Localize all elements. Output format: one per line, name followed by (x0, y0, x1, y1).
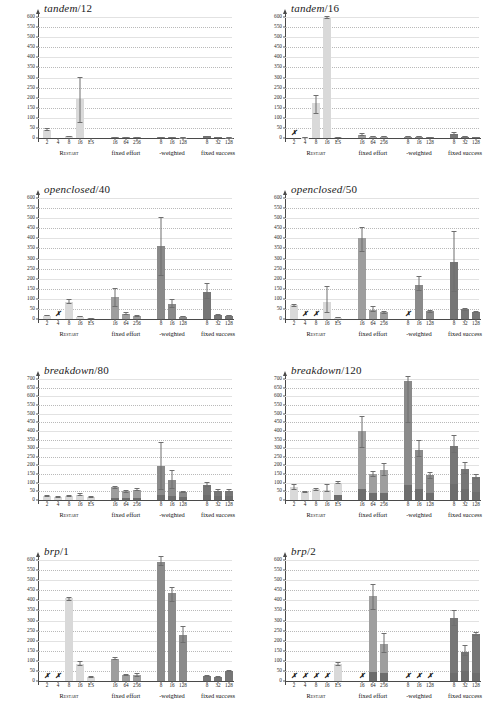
gridline (38, 248, 232, 249)
gridline (285, 590, 479, 591)
error-bar (476, 311, 477, 314)
y-tick-mark (283, 439, 286, 440)
y-tick-mark (36, 379, 39, 380)
y-tick-label: 50 (30, 489, 35, 494)
error-bar (80, 493, 81, 496)
y-tick-label: 100 (274, 296, 282, 301)
y-tick-label: 300 (27, 618, 35, 623)
x-tick-label: 2 (46, 321, 49, 326)
group-label-fixed-effort: fixed effort (359, 512, 388, 518)
x-tick-label: 128 (472, 502, 480, 507)
gridline (38, 483, 232, 484)
gridline (38, 431, 232, 432)
y-tick-label: 200 (27, 463, 35, 468)
panel-title-model: openclosed (291, 183, 342, 195)
y-tick-mark (36, 600, 39, 601)
group-label-restart: Restart (60, 512, 79, 518)
missing-data-marker: ✗ (405, 311, 411, 318)
y-tick-label: 400 (27, 428, 35, 433)
bar (43, 130, 51, 138)
y-tick-label: 500 (274, 35, 282, 40)
y-tick-mark (283, 17, 286, 18)
x-tick-label: 4 (57, 683, 60, 688)
y-tick-mark (283, 387, 286, 388)
x-tick-label: 16 (169, 683, 174, 688)
error-bar (384, 311, 385, 314)
y-tick-mark (283, 681, 286, 682)
y-tick-label: 350 (27, 65, 35, 70)
y-tick-label: 150 (274, 648, 282, 653)
panel-title: tandem/12 (44, 2, 92, 14)
y-tick-label: 250 (27, 85, 35, 90)
y-tick-label: 400 (27, 55, 35, 60)
x-tick-label: 64 (123, 140, 128, 145)
y-tick-label: 350 (27, 608, 35, 613)
y-tick-label: 350 (274, 608, 282, 613)
x-tick-label: 8 (206, 140, 209, 145)
gridline (285, 228, 479, 229)
error-bar (373, 584, 374, 610)
panel-title-param: /1 (60, 545, 69, 557)
y-tick-mark (36, 27, 39, 28)
y-tick-label: 100 (274, 115, 282, 120)
error-bar (69, 495, 70, 497)
y-tick-mark (36, 500, 39, 501)
error-bar (218, 314, 219, 316)
y-tick-label: 200 (274, 95, 282, 100)
y-tick-mark (36, 228, 39, 229)
gridline (38, 580, 232, 581)
x-tick-label: 128 (426, 683, 434, 688)
x-tick-label: 2 (46, 502, 49, 507)
error-bar (47, 128, 48, 130)
y-tick-label: 500 (274, 411, 282, 416)
x-tick-label: 4 (57, 140, 60, 145)
y-tick-label: 150 (27, 471, 35, 476)
x-tick-label: 2 (293, 502, 296, 507)
y-tick-mark (36, 422, 39, 423)
y-tick-mark (283, 491, 286, 492)
error-bar (316, 488, 317, 491)
y-tick-label: 500 (27, 578, 35, 583)
x-tick-label: 64 (370, 502, 375, 507)
error-bar (294, 484, 295, 489)
group-label-fixed-effort: fixed effort (112, 693, 141, 699)
y-tick-label: 400 (27, 598, 35, 603)
y-tick-label: 600 (27, 557, 35, 562)
error-bar (47, 495, 48, 498)
y-tick-mark (283, 138, 286, 139)
error-bar (229, 489, 230, 491)
x-tick-label: 16 (416, 140, 421, 145)
y-tick-mark (36, 77, 39, 78)
gridline (38, 98, 232, 99)
missing-data-marker: ✗ (55, 673, 61, 680)
x-tick-label: 128 (426, 140, 434, 145)
error-bar (327, 16, 328, 19)
y-tick-label: 400 (274, 55, 282, 60)
group-label-fixed-success: fixed success (448, 693, 482, 699)
y-tick-label: 200 (274, 463, 282, 468)
gridline (38, 88, 232, 89)
y-tick-label: 450 (27, 45, 35, 50)
x-tick-label: 8 (160, 683, 163, 688)
gridline (38, 108, 232, 109)
x-tick-label: 16 (169, 502, 174, 507)
x-tick-label: 256 (380, 502, 388, 507)
bar-base-segment (426, 493, 434, 500)
gridline (285, 431, 479, 432)
y-tick-mark (283, 278, 286, 279)
error-bar (218, 489, 219, 491)
gridline (38, 269, 232, 270)
error-bar (373, 306, 374, 312)
x-tick-label: 128 (179, 502, 187, 507)
y-tick-mark (36, 640, 39, 641)
error-bar (69, 136, 70, 137)
gridline (38, 259, 232, 260)
x-tick-label: 2 (293, 140, 296, 145)
y-tick-label: 250 (274, 266, 282, 271)
x-tick-label: 16 (112, 321, 117, 326)
group-label-fixed-effort: fixed effort (112, 150, 141, 156)
group-label-fixed-success: fixed success (448, 331, 482, 337)
plot-area: 0501001502002503003504004505005506006507… (285, 379, 479, 500)
gridline (285, 610, 479, 611)
bar (214, 491, 222, 501)
